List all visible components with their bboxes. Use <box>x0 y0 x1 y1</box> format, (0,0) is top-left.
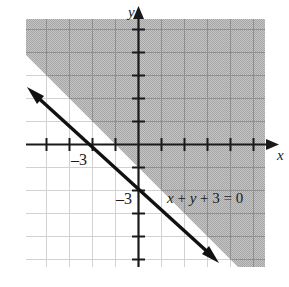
equation-annotation: x + y + 3 = 0 <box>167 191 243 206</box>
equation-term-y: y <box>190 190 197 206</box>
graph-screenshot: y x –3 –3 x + y + 3 = 0 <box>0 0 289 287</box>
equation-operator-equals: = <box>224 190 232 206</box>
y-axis-label: y <box>128 5 135 20</box>
x-axis-tick-label-negative-3: –3 <box>71 152 87 168</box>
equation-operator-plus-2: + <box>200 190 208 206</box>
equation-operator-plus-1: + <box>177 190 185 206</box>
equation-right-side-zero: 0 <box>236 190 244 206</box>
coordinate-plane-svg <box>0 0 289 287</box>
equation-constant-three: 3 <box>212 190 220 206</box>
x-axis-label: x <box>277 148 284 163</box>
y-axis-tick-label-negative-3: –3 <box>116 191 132 207</box>
linear-inequality-graph-figure: y x –3 –3 x + y + 3 = 0 <box>0 0 289 287</box>
equation-term-x: x <box>167 190 174 206</box>
